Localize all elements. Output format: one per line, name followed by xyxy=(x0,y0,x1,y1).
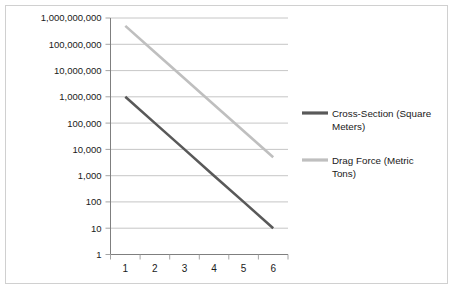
y-tick-label: 1 xyxy=(96,249,101,260)
y-axis-tick-labels: 1,000,000,000100,000,00010,000,0001,000,… xyxy=(41,12,102,260)
x-tick-label: 6 xyxy=(270,263,276,274)
x-tick-label: 5 xyxy=(241,263,247,274)
chart-plot: 1,000,000,000100,000,00010,000,0001,000,… xyxy=(0,0,458,291)
x-tick-label: 4 xyxy=(211,263,217,274)
x-tick-label: 2 xyxy=(152,263,158,274)
y-tick-label: 100,000 xyxy=(67,118,101,129)
y-tick-label: 10 xyxy=(91,223,102,234)
y-tick-marks xyxy=(106,18,111,255)
legend-label-continued: Meters) xyxy=(332,121,365,132)
x-axis-tick-labels: 123456 xyxy=(123,263,277,274)
y-tick-label: 100,000,000 xyxy=(49,39,102,50)
y-tick-label: 1,000 xyxy=(78,170,102,181)
x-tick-marks xyxy=(111,255,289,260)
x-tick-label: 3 xyxy=(182,263,188,274)
legend-label-continued: Tons) xyxy=(332,168,356,179)
y-tick-label: 1,000,000 xyxy=(59,91,101,102)
legend-label: Cross-Section (Square xyxy=(332,108,432,119)
series-line-cross-section xyxy=(125,97,273,228)
y-tick-label: 1,000,000,000 xyxy=(41,12,102,23)
y-tick-label: 10,000,000 xyxy=(54,65,102,76)
x-tick-label: 1 xyxy=(123,263,129,274)
chart-legend: Cross-Section (SquareMeters)Drag Force (… xyxy=(302,108,432,179)
series-lines xyxy=(125,26,273,228)
series-line-drag-force xyxy=(125,26,273,157)
y-tick-label: 100 xyxy=(86,196,102,207)
y-tick-label: 10,000 xyxy=(72,144,101,155)
legend-label: Drag Force (Metric xyxy=(332,155,414,166)
